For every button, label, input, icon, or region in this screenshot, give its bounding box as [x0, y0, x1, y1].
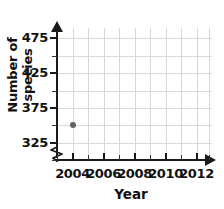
x-axis-minor-tick	[57, 155, 58, 160]
gridline-vertical	[88, 28, 89, 160]
y-axis-tick	[50, 142, 57, 144]
gridline-vertical	[181, 28, 182, 160]
gridline-vertical	[104, 28, 105, 160]
x-axis-minor-tick	[150, 155, 151, 160]
y-axis-minor-tick	[52, 125, 57, 126]
gridline-vertical	[197, 28, 198, 160]
gridline-horizontal	[57, 125, 212, 126]
y-axis-minor-tick	[52, 160, 57, 161]
x-axis-minor-tick	[181, 155, 182, 160]
x-axis-line	[55, 159, 207, 161]
x-axis-tick	[165, 153, 167, 160]
x-axis-tick	[196, 153, 198, 160]
gridline-horizontal	[57, 108, 212, 109]
x-axis-minor-tick	[209, 155, 210, 160]
y-axis-line	[56, 30, 58, 158]
gridline-horizontal	[57, 38, 212, 39]
gridline-vertical	[150, 28, 151, 160]
gridline-vertical	[119, 28, 120, 160]
plot-area	[57, 28, 212, 160]
y-axis-arrow-icon	[51, 21, 63, 32]
gridline-horizontal	[57, 56, 212, 57]
x-axis-tick	[72, 153, 74, 160]
gridline-vertical	[209, 28, 210, 160]
scatter-chart: 32537542547520042006200820102012 Number …	[0, 0, 224, 209]
x-axis-arrow-icon	[205, 154, 216, 166]
y-axis-minor-tick	[52, 56, 57, 57]
gridline-vertical	[73, 28, 74, 160]
gridline-horizontal	[57, 91, 212, 92]
data-point	[70, 122, 76, 128]
gridline-vertical	[135, 28, 136, 160]
y-axis-title: Number of species	[5, 10, 35, 140]
x-axis-tick	[103, 153, 105, 160]
y-axis-minor-tick	[52, 91, 57, 92]
gridline-horizontal	[57, 73, 212, 74]
y-axis-tick	[50, 72, 57, 74]
x-axis-tick-label: 2012	[177, 166, 217, 181]
gridline-vertical	[166, 28, 167, 160]
x-axis-minor-tick	[88, 155, 89, 160]
gridline-horizontal	[57, 143, 212, 144]
x-axis-title: Year	[55, 186, 207, 202]
y-axis-tick	[50, 37, 57, 39]
x-axis-tick	[134, 153, 136, 160]
y-axis-tick	[50, 107, 57, 109]
x-axis-minor-tick	[119, 155, 120, 160]
